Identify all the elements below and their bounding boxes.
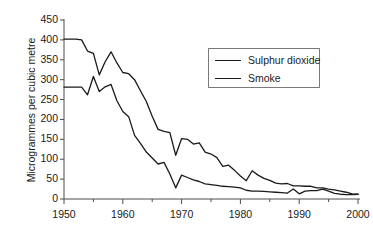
y-tick-label: 200: [26, 112, 58, 124]
legend-item-smoke: Smoke: [209, 69, 319, 87]
y-tick-label: 350: [26, 53, 58, 65]
y-tick-label: 400: [26, 33, 58, 45]
x-tick-label: 1990: [279, 208, 319, 220]
x-tick-label: 1950: [44, 208, 84, 220]
y-tick-label: 450: [26, 13, 58, 25]
y-tick-label: 150: [26, 132, 58, 144]
y-tick-label: 0: [26, 192, 58, 204]
legend-line-icon: [215, 60, 241, 61]
x-tick-label: 1960: [103, 208, 143, 220]
series-line-smoke: [64, 76, 358, 194]
legend-label: Sulphur dioxide: [248, 54, 320, 66]
y-tick-label: 250: [26, 93, 58, 105]
chart-legend: Sulphur dioxide Smoke: [208, 48, 320, 88]
legend-line-icon: [215, 78, 241, 79]
legend-label: Smoke: [248, 72, 281, 84]
y-tick-label: 300: [26, 73, 58, 85]
y-tick-label: 50: [26, 172, 58, 184]
y-tick-label: 100: [26, 152, 58, 164]
x-tick-label: 1970: [162, 208, 202, 220]
x-tick-label: 1980: [220, 208, 260, 220]
x-tick-label: 2000: [338, 208, 373, 220]
legend-item-sulphur-dioxide: Sulphur dioxide: [209, 51, 319, 69]
chart-figure: Microgrammes per cubic metre 05010015020…: [0, 0, 373, 232]
